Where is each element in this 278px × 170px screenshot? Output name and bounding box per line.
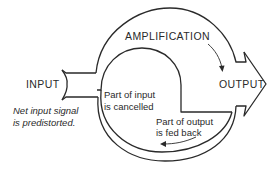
input-label: INPUT bbox=[26, 78, 60, 90]
feedback-diagram: INPUT AMPLIFICATION OUTPUT Part of input… bbox=[0, 0, 278, 170]
fedback-label-line2: is fed back bbox=[156, 127, 202, 138]
output-label: OUTPUT bbox=[219, 78, 265, 90]
amplification-label: AMPLIFICATION bbox=[125, 30, 210, 42]
note-label-line2: is predistorted. bbox=[13, 117, 75, 128]
feedback-arrow-icon bbox=[160, 137, 196, 147]
input-arrow-tail bbox=[62, 70, 98, 100]
note-label-line1: Net input signal bbox=[13, 105, 79, 116]
cancelled-label-line2: is cancelled bbox=[104, 101, 154, 112]
fedback-label-line1: Part of output bbox=[156, 116, 213, 127]
cancelled-label-line1: Part of input bbox=[104, 89, 156, 100]
amplification-arrow-icon bbox=[208, 44, 225, 72]
